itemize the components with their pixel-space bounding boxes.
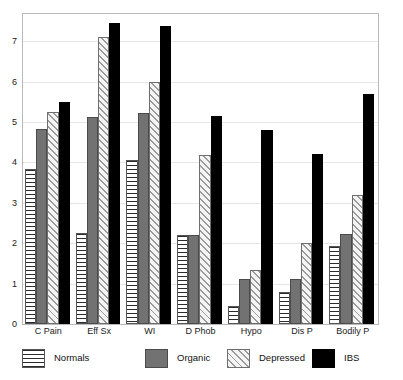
y-tick-label: 1 — [12, 279, 17, 288]
legend-swatch-icon — [312, 349, 335, 368]
bar-organic — [340, 234, 351, 324]
y-tick-label: 7 — [12, 37, 17, 46]
y-tick-label: 3 — [12, 198, 17, 207]
bar-ibs — [160, 26, 171, 324]
x-tick-label: Bodily P — [336, 327, 369, 336]
x-tick-label: D Phob — [185, 327, 215, 336]
bar-normals — [329, 246, 340, 324]
bar-ibs — [312, 154, 323, 324]
bar-group — [226, 14, 277, 324]
y-tick-label: 2 — [12, 239, 17, 248]
x-tick-label: Dis P — [291, 327, 313, 336]
legend-item-depressed[interactable]: Depressed — [227, 348, 305, 368]
bar-ibs — [59, 102, 70, 324]
legend-label: Depressed — [259, 353, 305, 363]
legend-item-normals[interactable]: Normals — [22, 348, 89, 368]
legend-swatch-icon — [227, 349, 250, 368]
y-tick-label: 5 — [12, 118, 17, 127]
bar-organic — [36, 129, 47, 324]
x-axis: C PainEff SxWID PhobHypoDis PBodily P — [23, 327, 378, 343]
bar-normals — [25, 169, 36, 324]
bar-depressed — [47, 112, 58, 324]
bar-depressed — [199, 155, 210, 324]
bar-depressed — [149, 82, 160, 324]
legend-label: IBS — [344, 353, 359, 363]
bar-organic — [138, 113, 149, 324]
x-tick-label: WI — [144, 327, 155, 336]
bar-normals — [279, 292, 290, 324]
bar-normals — [76, 233, 87, 324]
bar-normals — [228, 306, 239, 324]
bar-group — [277, 14, 328, 324]
bar-chart: 01234567 C PainEff SxWID PhobHypoDis PBo… — [0, 0, 403, 380]
bar-normals — [177, 235, 188, 324]
legend-label: Normals — [54, 353, 89, 363]
legend-item-organic[interactable]: Organic — [145, 348, 210, 368]
bar-depressed — [301, 243, 312, 324]
bars-layer — [23, 14, 378, 324]
bar-ibs — [261, 130, 272, 324]
bar-group — [124, 14, 175, 324]
x-tick-label: Hypo — [241, 327, 262, 336]
legend-swatch-icon — [22, 349, 45, 368]
x-tick-label: C Pain — [35, 327, 62, 336]
y-tick-label: 0 — [12, 320, 17, 329]
y-tick-label: 6 — [12, 77, 17, 86]
legend-swatch-icon — [145, 349, 168, 368]
y-axis: 01234567 — [0, 13, 20, 325]
y-tick-label: 4 — [12, 158, 17, 167]
bar-group — [74, 14, 125, 324]
x-tick-label: Eff Sx — [87, 327, 111, 336]
bar-organic — [239, 279, 250, 324]
bar-organic — [188, 235, 199, 324]
bar-organic — [87, 117, 98, 324]
bar-depressed — [352, 195, 363, 324]
bar-ibs — [363, 94, 374, 324]
legend-label: Organic — [177, 353, 210, 363]
bar-group — [23, 14, 74, 324]
bar-ibs — [109, 23, 120, 324]
bar-normals — [126, 160, 137, 324]
bar-ibs — [211, 116, 222, 324]
bar-depressed — [250, 270, 261, 324]
bar-organic — [290, 279, 301, 324]
bar-depressed — [98, 37, 109, 324]
bar-group — [175, 14, 226, 324]
bar-group — [327, 14, 378, 324]
legend-item-ibs[interactable]: IBS — [312, 348, 359, 368]
chart-legend: NormalsOrganicDepressedIBS — [22, 348, 382, 374]
